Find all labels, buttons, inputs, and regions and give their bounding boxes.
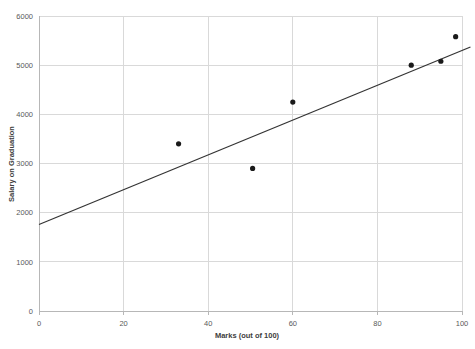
x-tick-label: 20 (119, 319, 127, 328)
scatter-chart: 0100020003000400050006000020406080100 Ma… (0, 0, 475, 349)
data-point-marker (250, 166, 255, 171)
y-tick-label: 4000 (16, 110, 33, 119)
trend-line (39, 47, 470, 224)
x-tick-label: 80 (373, 319, 381, 328)
y-tick-label: 1000 (16, 258, 33, 267)
data-point-marker (290, 99, 295, 104)
y-tick-label: 0 (29, 307, 33, 316)
data-point-marker (409, 63, 414, 68)
axes (39, 16, 462, 315)
x-tick-label: 0 (37, 319, 41, 328)
data-point-marker (453, 34, 458, 39)
x-tick-label: 100 (456, 319, 469, 328)
y-tick-label: 3000 (16, 159, 33, 168)
gridlines (39, 16, 462, 311)
y-axis-title: Salary on Graduation (7, 126, 16, 202)
x-tick-label: 60 (289, 319, 297, 328)
y-tick-label: 2000 (16, 208, 33, 217)
x-axis-title: Marks (out of 100) (215, 331, 280, 340)
regression-line (39, 47, 470, 224)
x-tick-label: 40 (204, 319, 212, 328)
chart-canvas: 0100020003000400050006000020406080100 Ma… (0, 0, 475, 349)
y-tick-label: 5000 (16, 61, 33, 70)
y-tick-label: 6000 (16, 12, 33, 21)
data-point-marker (438, 59, 443, 64)
tick-labels: 0100020003000400050006000020406080100 (16, 12, 468, 328)
data-point-marker (176, 141, 181, 146)
